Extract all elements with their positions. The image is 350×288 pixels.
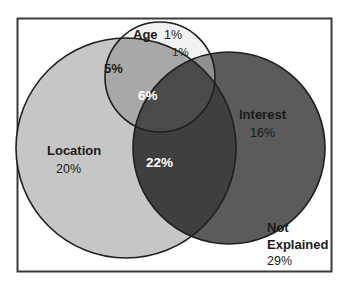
label-location-value: 20%: [56, 162, 81, 176]
label-location-interest-value: 22%: [146, 155, 173, 170]
label-age-interest-value: 1%: [172, 46, 189, 58]
label-not-explained-line2: Explained: [267, 237, 328, 252]
label-not-explained-value: 29%: [267, 254, 292, 268]
label-interest-title: Interest: [239, 107, 287, 122]
label-location-title: Location: [47, 143, 101, 158]
label-triple-value: 6%: [138, 88, 158, 103]
label-not-explained-line1: Not: [267, 220, 289, 235]
venn-diagram-canvas: Age 1% 1% 5% 6% 22% Location 20% Interes…: [0, 0, 350, 288]
label-age-title: Age: [133, 27, 158, 42]
label-age-value: 1%: [164, 28, 182, 42]
venn-diagram-figure: Age 1% 1% 5% 6% 22% Location 20% Interes…: [0, 0, 350, 288]
label-age-location-value: 5%: [104, 61, 123, 76]
label-interest-value: 16%: [250, 126, 275, 140]
